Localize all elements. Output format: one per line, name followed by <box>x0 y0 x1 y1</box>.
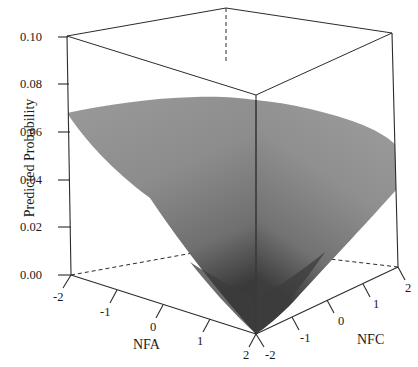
box-back-edges <box>67 8 392 95</box>
x-axis-title: NFA <box>133 337 160 353</box>
x-tick-label-1: -1 <box>100 305 110 320</box>
x-tick-label-0: -2 <box>53 290 63 305</box>
x-tick-label-4: 2 <box>243 348 249 363</box>
z-axis-title: Predicted Probability <box>22 68 38 248</box>
surface-mesh <box>67 97 398 334</box>
plot-canvas <box>0 0 418 367</box>
y-tick-label-4: 2 <box>405 281 411 296</box>
y-tick-label-0: -2 <box>265 348 275 363</box>
z-tick-label-5: 0.10 <box>20 30 42 45</box>
x-tick-label-3: 1 <box>197 334 203 349</box>
x-tick-label-2: 0 <box>150 320 156 335</box>
z-tick-label-0: 0.00 <box>20 268 42 283</box>
y-tick-label-2: 0 <box>338 314 344 329</box>
surface-plot-figure: 0.00 0.02 0.04 0.06 0.08 0.10 -2 -1 0 1 … <box>0 0 418 367</box>
y-tick-label-1: -1 <box>300 331 310 346</box>
y-tick-label-3: 1 <box>373 297 379 312</box>
y-axis-title: NFC <box>357 332 384 348</box>
